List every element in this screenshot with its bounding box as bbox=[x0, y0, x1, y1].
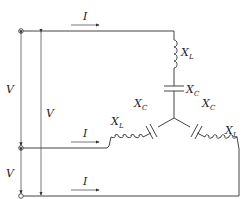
wire-top bbox=[23, 31, 174, 40]
voltage-label-middle-bottom: V bbox=[6, 167, 15, 180]
terminal-top bbox=[19, 29, 24, 34]
top-inductor-label: X L bbox=[180, 46, 194, 61]
svg-text:C: C bbox=[194, 90, 200, 98]
circuit-diagram: I I I V V V X L X C X C X L X C X L bbox=[0, 0, 248, 199]
wire-middle bbox=[23, 146, 109, 148]
current-label-middle: I bbox=[82, 127, 88, 140]
voltage-label-top-middle: V bbox=[6, 83, 15, 96]
terminal-middle bbox=[19, 146, 24, 151]
current-label-top: I bbox=[82, 10, 88, 23]
left-capacitor-label: X C bbox=[133, 97, 148, 112]
left-inductor-label: X L bbox=[110, 115, 124, 130]
svg-text:L: L bbox=[118, 122, 124, 130]
top-inductor-icon bbox=[174, 40, 177, 68]
wire-right-cap-inductor bbox=[197, 133, 205, 137]
circuit-svg: I I I V V V X L X C X C X L X C X L bbox=[0, 0, 248, 199]
svg-text:C: C bbox=[210, 104, 216, 112]
wire-left-cap-inductor bbox=[143, 133, 151, 137]
wire-right-branch bbox=[174, 118, 190, 127]
wire-left-branch bbox=[158, 118, 174, 127]
right-inductor-label: X L bbox=[224, 124, 238, 139]
terminal-bottom bbox=[19, 194, 24, 199]
svg-text:C: C bbox=[142, 104, 148, 112]
left-inductor-icon bbox=[109, 134, 143, 146]
right-capacitor-label: X C bbox=[201, 97, 216, 112]
current-label-bottom: I bbox=[82, 175, 88, 188]
top-capacitor-label: X C bbox=[185, 83, 200, 98]
svg-text:L: L bbox=[188, 53, 194, 61]
svg-text:L: L bbox=[232, 131, 238, 139]
voltage-label-top-bottom: V bbox=[46, 107, 55, 120]
